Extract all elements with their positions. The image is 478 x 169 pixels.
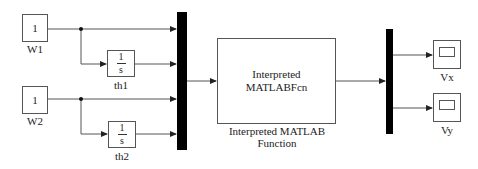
transfer-fraction: 1 s xyxy=(117,52,126,75)
constant-block-w1[interactable]: 1 xyxy=(22,14,48,42)
interpreted-matlab-function-block[interactable]: Interpreted MATLABFcn xyxy=(217,38,336,124)
branch-point-w1 xyxy=(79,27,83,31)
scope-screen-icon xyxy=(439,47,455,57)
simulink-canvas: 1 W1 1 s th1 1 W2 1 s th2 Interpreted MA… xyxy=(0,0,478,169)
block-label-w2: W2 xyxy=(20,115,50,127)
block-label-th1: th1 xyxy=(106,79,136,91)
function-block-text: Interpreted MATLABFcn xyxy=(246,68,308,94)
scope-block-vx[interactable] xyxy=(433,40,461,69)
function-block-caption: Interpreted MATLAB Function xyxy=(216,125,338,149)
branch-point-w2 xyxy=(79,97,83,101)
constant-value: 1 xyxy=(32,94,38,106)
block-label-vx: Vx xyxy=(432,71,462,83)
block-label-w1: W1 xyxy=(20,43,50,55)
mux-block[interactable] xyxy=(177,12,187,150)
scope-screen-icon xyxy=(439,100,455,110)
constant-value: 1 xyxy=(32,22,38,34)
constant-block-w2[interactable]: 1 xyxy=(22,86,48,114)
integrator-block-th1[interactable]: 1 s xyxy=(107,50,135,77)
block-label-th2: th2 xyxy=(107,150,137,162)
scope-block-vy[interactable] xyxy=(433,93,461,122)
demux-block[interactable] xyxy=(386,29,393,134)
transfer-fraction: 1 s xyxy=(118,123,127,146)
integrator-block-th2[interactable]: 1 s xyxy=(108,121,136,148)
block-label-vy: Vy xyxy=(432,124,462,136)
